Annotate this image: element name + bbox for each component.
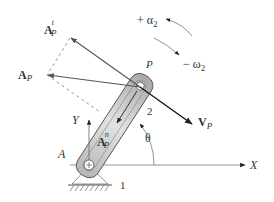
total-acceleration-label: AP — [18, 68, 33, 83]
omega-label: − ω2 — [183, 57, 205, 73]
ground-number-label: 1 — [120, 179, 126, 191]
omega-arc — [154, 38, 179, 55]
dashed-construction-lines — [47, 38, 100, 112]
theta-label: θ — [145, 131, 151, 145]
y-axis-label: Y — [72, 113, 80, 127]
link-number-label: 2 — [147, 105, 153, 117]
point-p-label: P — [145, 58, 153, 70]
kinematics-diagram: + α2 − ω2 P 2 VP θ X Y A 1 AP AtP AnP — [0, 0, 274, 202]
alpha-label: + α2 — [137, 13, 158, 29]
velocity-label: VP — [198, 115, 213, 131]
x-axis-label: X — [249, 158, 258, 172]
alpha-arc — [166, 19, 192, 36]
pivot-a — [84, 160, 94, 170]
tangential-acceleration-label: AtP — [44, 18, 57, 38]
pivot-a-label: A — [57, 147, 66, 161]
